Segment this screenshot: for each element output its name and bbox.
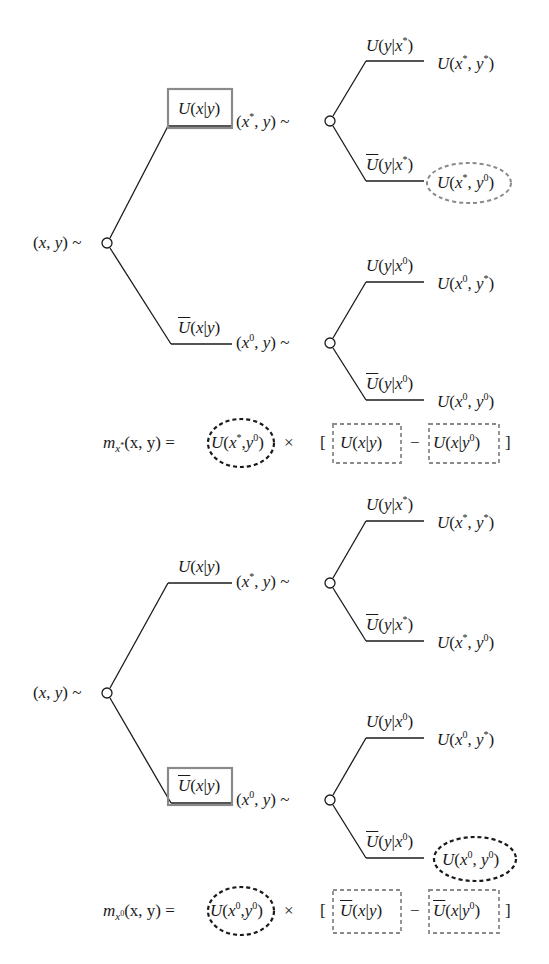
formula-1-minus: − — [410, 433, 420, 453]
tree-1-lower-branch-label: U(x|y) — [178, 318, 220, 338]
tree-1-leaf-4-branch-label: U(y|x0) — [366, 374, 413, 394]
tree-1-leaf-3-outcome: U(x0, y*) — [437, 274, 494, 294]
tree-2-leaf-1-branch-label: U(y|x*) — [366, 495, 413, 515]
tree-2-upper-node — [325, 578, 335, 588]
formula-1-open-bracket: [ — [320, 433, 326, 453]
tree-1-root-node — [102, 238, 112, 248]
formula-1-term2: U(x|y0) — [433, 433, 480, 453]
tree-1-leaf-3-branch-label: U(y|x0) — [366, 256, 413, 276]
tree-2-leaf-4-outcome: U(x0, y0) — [442, 850, 499, 870]
tree-1-upper-branch-label: U(x|y) — [178, 99, 220, 119]
tree-1-leaf-2-outcome: U(x*, y0) — [437, 173, 494, 193]
tree-1-root-label: (x, y) ~ — [33, 233, 81, 253]
tree-1-leaf-4-outcome: U(x0, y0) — [437, 392, 494, 412]
tree-1-nodes — [102, 116, 335, 348]
tree-2-upper-node-label: (x*, y) ~ — [236, 572, 289, 592]
tree-2-leaf-2-outcome: U(x*, y0) — [437, 633, 494, 653]
tree-1-upper-node — [325, 116, 335, 126]
formula-2-times: × — [284, 901, 294, 921]
formula-2-close-bracket: ] — [505, 901, 511, 921]
figure-caption-cutoff — [0, 952, 549, 964]
tree-1-leaf-1-branch-label: U(y|x*) — [366, 36, 413, 56]
formula-1-term1: U(x|y) — [340, 433, 382, 453]
tree-2-lower-node-label: (x0, y) ~ — [236, 790, 289, 810]
formula-2-factor: U(x0,y0) — [210, 901, 263, 921]
formula-2-term2: U(x|y0) — [433, 901, 480, 921]
formula-1-times: × — [284, 433, 294, 453]
tree-1-upper-node-label: (x*, y) ~ — [236, 112, 289, 132]
formula-1-factor: U(x*,y0) — [211, 433, 264, 453]
formula-2-term1: U(x|y) — [340, 901, 382, 921]
tree-2-upper-branch-label: U(x|y) — [178, 557, 220, 577]
tree-2-nodes — [102, 578, 335, 805]
formula-1-close-bracket: ] — [505, 433, 511, 453]
tree-2-leaf-3-branch-label: U(y|x0) — [366, 712, 413, 732]
tree-2-leaf-2-branch-label: U(y|x*) — [366, 615, 413, 635]
tree-2-root-label: (x, y) ~ — [33, 683, 81, 703]
tree-diagram-canvas — [0, 0, 549, 964]
tree-1-lower-node — [325, 338, 335, 348]
tree-2-leaf-3-outcome: U(x0, y*) — [437, 730, 494, 750]
formula-2-lhs: mx0(x, y) = — [103, 901, 175, 921]
formula-2-open-bracket: [ — [320, 901, 326, 921]
tree-1-lower-node-label: (x0, y) ~ — [236, 333, 289, 353]
tree-2-root-node — [102, 688, 112, 698]
tree-1-leaf-1-outcome: U(x*, y*) — [437, 54, 494, 74]
tree-2-leaf-4-branch-label: U(y|x0) — [366, 832, 413, 852]
tree-2-lower-branch-label: U(x|y) — [178, 776, 220, 796]
tree-2-leaf-1-outcome: U(x*, y*) — [437, 513, 494, 533]
formula-1-lhs: mx*(x, y) = — [103, 433, 175, 453]
formula-2-minus: − — [410, 901, 420, 921]
tree-1-leaf-2-branch-label: U(y|x*) — [366, 155, 413, 175]
tree-2-lower-node — [325, 795, 335, 805]
